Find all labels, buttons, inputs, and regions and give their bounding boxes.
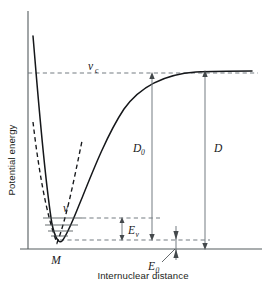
e0-leader-line xyxy=(162,249,175,262)
e0-label-main: E xyxy=(147,260,155,272)
d0-measure-arrow xyxy=(149,72,154,241)
y-axis-label: Potential energy xyxy=(6,124,17,195)
ev-label-sub: v xyxy=(136,230,140,239)
v-label: v xyxy=(63,202,69,214)
d0-label: D 0 xyxy=(132,142,145,157)
d-label: D xyxy=(213,142,223,154)
e0-measure-arrow xyxy=(173,226,178,260)
ev-label-main: E xyxy=(127,224,135,236)
x-axis-label: Internuclear distance xyxy=(97,270,188,281)
ev-measure-arrow xyxy=(120,217,125,241)
e0-arrowhead-down xyxy=(173,231,178,240)
vc-label-main: v xyxy=(88,60,94,72)
d-measure-arrow xyxy=(202,70,207,250)
ev-label: E v xyxy=(127,224,140,239)
e0-label-sub: 0 xyxy=(156,266,160,275)
diagram-canvas: Potential energy Internuclear distance v… xyxy=(0,0,265,286)
vc-label-sub: c xyxy=(95,66,99,75)
d0-label-sub: 0 xyxy=(141,148,145,157)
minimum-label: M xyxy=(50,254,62,266)
potential-energy-diagram: Potential energy Internuclear distance v… xyxy=(0,0,265,286)
